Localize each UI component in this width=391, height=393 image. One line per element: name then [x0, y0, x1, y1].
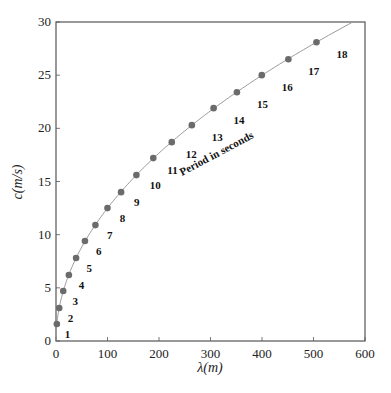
x-tick-label: 0 — [53, 346, 60, 361]
data-point — [82, 238, 89, 245]
point-period-label: 9 — [134, 196, 140, 208]
fit-curve — [56, 23, 352, 341]
point-period-label: 15 — [257, 98, 269, 110]
y-tick-label: 15 — [38, 174, 51, 189]
data-point — [60, 288, 67, 295]
x-tick-label: 100 — [98, 346, 118, 361]
point-period-label: 3 — [72, 295, 78, 307]
data-point — [133, 172, 140, 179]
point-period-label: 1 — [65, 328, 71, 340]
data-points — [54, 39, 320, 327]
x-tick-label: 300 — [201, 346, 221, 361]
point-period-label: 4 — [79, 279, 85, 291]
data-point — [56, 305, 63, 312]
point-period-label: 8 — [120, 212, 126, 224]
data-point — [73, 255, 80, 262]
point-period-label: 17 — [308, 65, 320, 77]
data-point — [189, 122, 196, 129]
point-period-label: 18 — [336, 48, 348, 60]
point-period-label: 7 — [107, 229, 113, 241]
point-period-label: 2 — [68, 312, 74, 324]
point-labels: 123456789101112131415161718 — [65, 48, 348, 340]
data-point — [104, 205, 111, 212]
point-period-label: 6 — [96, 245, 102, 257]
data-point — [234, 89, 241, 96]
dispersion-curve — [56, 23, 352, 341]
data-point — [313, 39, 320, 46]
x-tick-label: 200 — [149, 346, 169, 361]
point-period-label: 5 — [86, 262, 92, 274]
chart: 0100200300400500600051015202530 12345678… — [0, 0, 391, 393]
data-point — [210, 105, 217, 112]
x-tick-label: 400 — [252, 346, 272, 361]
x-axis-label: λ(m) — [196, 360, 223, 376]
y-tick-label: 5 — [45, 280, 52, 295]
y-tick-label: 25 — [38, 67, 51, 82]
y-tick-label: 20 — [38, 120, 51, 135]
x-tick-label: 500 — [304, 346, 324, 361]
data-point — [66, 272, 73, 279]
data-point — [258, 72, 265, 79]
point-period-label: 10 — [150, 179, 162, 191]
point-period-label: 14 — [234, 114, 246, 126]
y-tick-label: 10 — [38, 227, 51, 242]
data-point — [92, 222, 99, 229]
x-tick-label: 600 — [355, 346, 375, 361]
axis-ticks: 0100200300400500600051015202530 — [38, 14, 375, 361]
data-point — [54, 321, 61, 328]
point-period-label: 11 — [167, 164, 177, 176]
y-axis-label: c(m/s) — [10, 164, 26, 199]
data-point — [150, 155, 157, 162]
y-tick-label: 0 — [45, 333, 52, 348]
data-point — [285, 56, 292, 63]
data-point — [168, 139, 175, 146]
point-period-label: 13 — [212, 131, 224, 143]
data-point — [118, 189, 125, 196]
point-period-label: 16 — [282, 81, 294, 93]
y-tick-label: 30 — [38, 14, 51, 29]
